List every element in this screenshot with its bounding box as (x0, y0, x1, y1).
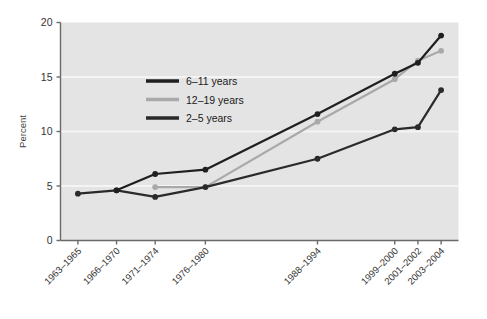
series-point (415, 60, 421, 66)
legend-label: 12–19 years (186, 94, 244, 106)
series-point (75, 191, 81, 197)
y-tick-label: 20 (41, 16, 53, 28)
series-point (438, 48, 444, 54)
series-point (438, 33, 444, 39)
y-tick-label: 0 (47, 234, 53, 246)
series-point (438, 87, 444, 93)
series-point (152, 171, 158, 177)
chart-container: 05101520 Percent 1963–19651966–19701971–… (0, 0, 487, 319)
series-point (315, 119, 321, 125)
chart-legend: 6–11 years12–19 years2–5 years (146, 75, 244, 124)
y-tick-label: 5 (47, 180, 53, 192)
series-point (203, 167, 209, 173)
series-point (152, 194, 158, 200)
series-point (392, 71, 398, 77)
series-point (415, 124, 421, 130)
y-axis-label: Percent (17, 115, 28, 148)
line-chart: 05101520 Percent 1963–19651966–19701971–… (0, 0, 487, 319)
y-tick-label: 10 (41, 125, 53, 137)
series-point (315, 111, 321, 117)
series-point (315, 156, 321, 162)
legend-label: 6–11 years (186, 75, 237, 87)
y-tick-label: 15 (41, 71, 53, 83)
series-point (392, 76, 398, 82)
series-point (152, 184, 158, 190)
series-point (203, 184, 209, 190)
series-point (114, 187, 120, 193)
y-axis-title: Percent (17, 115, 28, 148)
series-point (392, 126, 398, 132)
legend-label: 2–5 years (186, 112, 232, 124)
